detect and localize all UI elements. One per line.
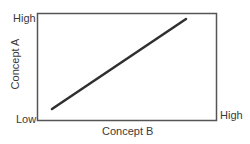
trend-line <box>52 19 186 109</box>
chart-canvas <box>0 0 250 144</box>
plot-frame <box>38 14 217 121</box>
x-tick-high: High <box>220 109 243 121</box>
x-axis-label: Concept B <box>102 125 153 137</box>
y-axis-label: Concept A <box>9 39 21 90</box>
y-tick-high: High <box>13 12 36 24</box>
y-tick-low: Low <box>16 113 36 125</box>
